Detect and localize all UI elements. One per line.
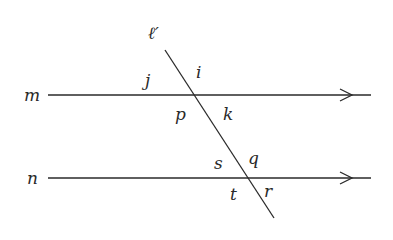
- angle-label-p: p: [175, 104, 186, 124]
- diagram-canvas: m n ℓ′ j i p k s q t r: [0, 0, 393, 240]
- diagram-svg: m n ℓ′ j i p k s q t r: [0, 0, 393, 240]
- angle-label-q: q: [248, 148, 259, 168]
- line-n-label: n: [27, 168, 38, 188]
- angle-label-s: s: [214, 153, 223, 173]
- angle-label-i: i: [196, 62, 201, 82]
- angle-label-r: r: [264, 181, 273, 201]
- angle-label-j: j: [141, 70, 151, 90]
- angle-label-t: t: [230, 184, 237, 204]
- transversal-label: ℓ′: [148, 23, 159, 43]
- angle-label-k: k: [223, 104, 233, 124]
- transversal-line: [165, 50, 274, 218]
- line-m-label: m: [24, 85, 40, 105]
